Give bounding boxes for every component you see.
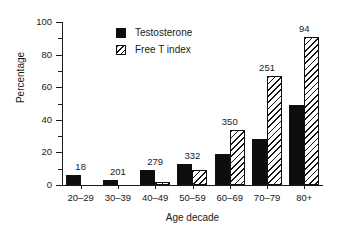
- bar-testosterone: [103, 180, 118, 185]
- bar-free-t-index: [155, 182, 170, 185]
- group-count-label: 279: [147, 157, 163, 167]
- legend-item-free-t-index: Free T index: [116, 41, 192, 58]
- bar-testosterone: [215, 154, 230, 185]
- y-tick-label: 60: [26, 82, 52, 92]
- x-tick-label: 20–29: [62, 192, 99, 203]
- legend-label-testosterone: Testosterone: [135, 27, 192, 38]
- y-tick-major: [56, 185, 62, 186]
- x-tick-label: 40–49: [137, 192, 174, 203]
- legend-swatch-solid-icon: [116, 28, 126, 38]
- x-tick: [155, 185, 156, 189]
- bar-free-t-index: [230, 130, 245, 185]
- legend-label-free-t-index: Free T index: [135, 44, 191, 55]
- bar-free-t-index: [267, 76, 282, 185]
- bar-testosterone: [66, 175, 81, 185]
- x-tick: [118, 185, 119, 189]
- x-tick: [230, 185, 231, 189]
- group-count-label: 350: [222, 117, 238, 127]
- y-tick-label: 0: [26, 180, 52, 190]
- x-tick-label: 70–79: [248, 192, 285, 203]
- x-tick: [81, 185, 82, 189]
- bar-pair: [286, 22, 323, 185]
- legend-swatch-hatch-icon: [116, 45, 126, 55]
- y-tick-label: 80: [26, 50, 52, 60]
- bar-free-t-index: [304, 37, 319, 185]
- bar-testosterone: [289, 105, 304, 185]
- bar-testosterone: [177, 164, 192, 185]
- chart-legend: Testosterone Free T index: [116, 24, 192, 58]
- bar-group: 251: [248, 22, 285, 185]
- bar-group: 350: [211, 22, 248, 185]
- group-count-label: 201: [110, 167, 126, 177]
- x-axis-label: Age decade: [62, 212, 323, 223]
- y-tick-label: 100: [26, 17, 52, 27]
- group-count-label: 251: [259, 63, 275, 73]
- y-tick-label: 20: [26, 147, 52, 157]
- x-tick: [193, 185, 194, 189]
- bar-free-t-index: [192, 170, 207, 185]
- x-tick-label: 30–39: [99, 192, 136, 203]
- bar-pair: [248, 22, 285, 185]
- y-axis-label: Percentage: [15, 28, 26, 128]
- group-count-label: 18: [75, 162, 86, 172]
- x-tick: [304, 185, 305, 189]
- y-tick-label: 40: [26, 115, 52, 125]
- x-tick-label: 80+: [286, 192, 323, 203]
- x-tick-label: 50–59: [174, 192, 211, 203]
- bar-testosterone: [252, 139, 267, 185]
- bar-group: 94: [286, 22, 323, 185]
- bar-group: 18: [62, 22, 99, 185]
- legend-item-testosterone: Testosterone: [116, 24, 192, 41]
- x-tick: [267, 185, 268, 189]
- x-tick-label: 60–69: [211, 192, 248, 203]
- chart-title: [70, 0, 300, 9]
- group-count-label: 94: [299, 24, 310, 34]
- bar-pair: [211, 22, 248, 185]
- bar-chart: 020406080100 Percentage 1820127933235025…: [0, 0, 351, 249]
- group-count-label: 332: [185, 151, 201, 161]
- bar-testosterone: [140, 170, 155, 185]
- bar-groups: 1820127933235025194: [62, 22, 323, 185]
